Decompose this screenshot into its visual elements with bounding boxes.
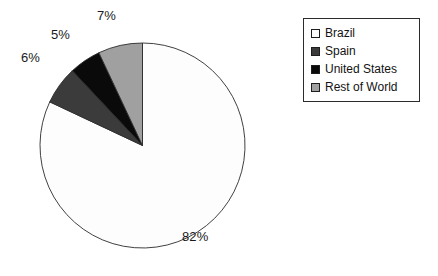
legend-item-rest-of-world[interactable]: Rest of World xyxy=(311,78,413,96)
legend-item-spain[interactable]: Spain xyxy=(311,42,413,60)
pie-label-spain: 6% xyxy=(21,50,40,65)
legend-item-label: Brazil xyxy=(325,27,355,40)
pie-chart: 7% 5% 6% 82% xyxy=(0,0,290,276)
legend-swatch-icon xyxy=(311,83,320,92)
pie-label-united-states: 5% xyxy=(51,27,70,42)
pie-chart-svg xyxy=(0,0,290,276)
legend-swatch-icon xyxy=(311,29,320,38)
legend-item-label: United States xyxy=(325,63,397,76)
pie-label-rest-of-world: 7% xyxy=(97,8,116,23)
legend-item-brazil[interactable]: Brazil xyxy=(311,24,413,42)
legend-swatch-icon xyxy=(311,65,320,74)
legend: BrazilSpainUnited StatesRest of World xyxy=(303,18,420,102)
pie-chart-screenshot: 7% 5% 6% 82% BrazilSpainUnited StatesRes… xyxy=(0,0,438,276)
legend-item-united-states[interactable]: United States xyxy=(311,60,413,78)
legend-item-label: Spain xyxy=(325,45,356,58)
legend-item-label: Rest of World xyxy=(325,81,397,94)
legend-swatch-icon xyxy=(311,47,320,56)
pie-label-brazil: 82% xyxy=(182,229,208,244)
pie-slice-group xyxy=(40,43,245,248)
